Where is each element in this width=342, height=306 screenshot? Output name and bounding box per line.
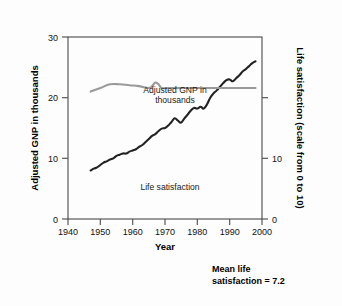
y2-tick-label-0: 0 [272, 215, 277, 225]
x-tick-label-1950: 1950 [90, 227, 110, 237]
x-tick-label-1990: 1990 [220, 227, 240, 237]
y-axis-left-ticks [62, 37, 68, 219]
annotation-gnp-line1: Adjusted GNP in [143, 85, 207, 95]
y-tick-label-10: 10 [48, 154, 58, 164]
x-tick-label-1980: 1980 [187, 227, 207, 237]
x-tick-label-1970: 1970 [155, 227, 175, 237]
y-tick-label-30: 30 [48, 33, 58, 43]
y-axis-right-ticks [262, 98, 268, 219]
y-tick-label-0: 0 [53, 215, 58, 225]
y2-axis-title-line1: Life satisfaction (scale from 0 to 10) [295, 47, 306, 209]
line-chart: 30 20 10 0 10 0 1940 1950 1960 1970 1980… [0, 0, 342, 306]
x-axis-title: Year [155, 241, 175, 252]
x-tick-label-1940: 1940 [58, 227, 78, 237]
note-line2: satisfaction = 7.2 [212, 276, 285, 286]
y-axis-title: Adjusted GNP in thousands [29, 65, 40, 190]
annotation-life-satisfaction: Life satisfaction [140, 182, 199, 192]
annotation-gnp-line2: thousands [155, 95, 195, 105]
x-tick-label-2000: 2000 [252, 227, 272, 237]
series-line-adjusted-gnp [91, 61, 256, 170]
chart-figure: 30 20 10 0 10 0 1940 1950 1960 1970 1980… [0, 0, 342, 306]
y-tick-label-20: 20 [48, 93, 58, 103]
x-axis-ticks [68, 219, 262, 225]
note-line1: Mean life [212, 264, 251, 274]
x-tick-label-1960: 1960 [123, 227, 143, 237]
y2-tick-label-10: 10 [272, 154, 282, 164]
